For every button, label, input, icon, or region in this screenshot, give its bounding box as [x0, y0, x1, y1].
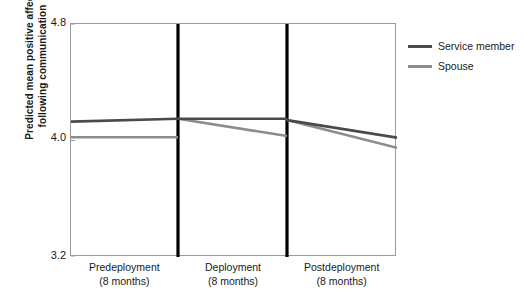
legend-label-spouse: Spouse [438, 60, 474, 72]
x-axis-panel-deployment: Deployment (8 months) [179, 260, 288, 298]
y-axis-tick-labels: 4.8 4.0 3.2 [33, 0, 66, 298]
chart-legend: Service member Spouse [408, 38, 523, 78]
x-axis-panel-predeployment-name: Predeployment [70, 260, 179, 274]
legend-item-service-member: Service member [408, 38, 523, 54]
x-axis-panel-predeployment: Predeployment (8 months) [70, 260, 179, 298]
legend-swatch-spouse-icon [408, 65, 432, 68]
x-axis-panel-deployment-name: Deployment [179, 260, 288, 274]
legend-item-spouse: Spouse [408, 58, 523, 74]
plot-svg [71, 24, 397, 257]
series-line-spouse [71, 119, 397, 148]
line-chart-figure: Predicted mean positive affect following… [0, 0, 523, 298]
x-axis-panel-predeployment-duration: (8 months) [70, 274, 179, 288]
x-axis-panel-postdeployment-name: Postdeployment [287, 260, 396, 274]
y-tick-marks [71, 24, 75, 256]
x-axis-panel-postdeployment: Postdeployment (8 months) [287, 260, 396, 298]
legend-label-service-member: Service member [438, 40, 514, 52]
plot-area [70, 23, 396, 256]
y-tick-label-4-0: 4.0 [36, 131, 66, 143]
legend-swatch-service-member-icon [408, 45, 432, 48]
y-tick-label-4-8: 4.8 [36, 16, 66, 28]
y-tick-label-3-2: 3.2 [36, 249, 66, 261]
x-axis-panel-labels: Predeployment (8 months) Deployment (8 m… [70, 260, 396, 298]
x-axis-panel-postdeployment-duration: (8 months) [287, 274, 396, 288]
x-axis-panel-deployment-duration: (8 months) [179, 274, 288, 288]
